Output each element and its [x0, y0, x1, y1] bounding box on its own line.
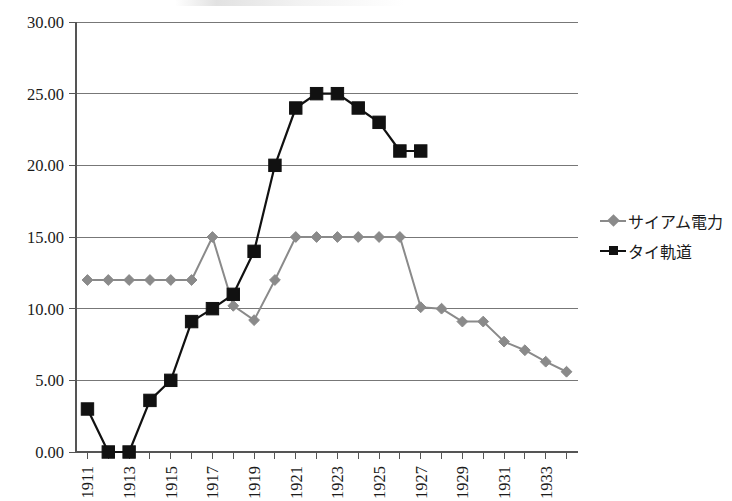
x-axis-tick-label: 1931: [495, 466, 514, 499]
y-axis-tick-label: 15.00: [27, 228, 64, 247]
y-axis-tick-label: 20.00: [27, 156, 64, 175]
data-point-marker-square: [123, 446, 135, 458]
data-point-marker-diamond: [519, 345, 530, 356]
data-point-marker-diamond: [290, 232, 301, 243]
data-point-marker-diamond: [311, 232, 322, 243]
data-point-marker-diamond: [82, 275, 93, 286]
x-axis-tick-label: 1921: [287, 466, 306, 499]
data-point-marker-square: [144, 394, 156, 406]
chart-container: 0.005.0010.0015.0020.0025.0030.00 191119…: [0, 0, 732, 501]
gray-diamond-line-icon: [600, 213, 626, 229]
data-point-marker-square: [185, 315, 197, 327]
data-point-marker-diamond: [540, 356, 551, 367]
data-point-marker-diamond: [561, 366, 572, 377]
data-point-marker-diamond: [374, 232, 385, 243]
data-point-marker-square: [310, 87, 322, 99]
data-point-marker-diamond: [270, 275, 281, 286]
data-point-marker-diamond: [145, 275, 156, 286]
data-point-marker-square: [394, 145, 406, 157]
data-point-marker-diamond: [457, 316, 468, 327]
data-point-marker-square: [373, 116, 385, 128]
data-point-marker-diamond: [165, 275, 176, 286]
x-axis-tick-label: 1917: [203, 466, 222, 499]
data-point-marker-square: [269, 159, 281, 171]
series-line-thai-tramway: [87, 94, 420, 452]
legend-label-series-b: タイ軌道: [628, 239, 692, 263]
data-point-marker-square: [227, 288, 239, 300]
legend-item-series-b[interactable]: タイ軌道: [600, 236, 732, 266]
data-point-marker-diamond: [353, 232, 364, 243]
x-axis-tick-label: 1913: [120, 466, 139, 499]
data-point-marker-square: [206, 302, 218, 314]
data-point-marker-square: [248, 245, 260, 257]
black-square-line-icon: [600, 243, 626, 259]
legend-item-series-a[interactable]: サイアム電力: [600, 206, 732, 236]
data-point-marker-diamond: [415, 302, 426, 313]
data-series-group: [81, 87, 572, 458]
data-point-marker-diamond: [207, 232, 218, 243]
x-axis-tick-label: 1925: [370, 466, 389, 499]
data-point-marker-diamond: [124, 275, 135, 286]
data-point-marker-square: [331, 87, 343, 99]
data-point-marker-square: [165, 374, 177, 386]
data-point-marker-diamond: [186, 275, 197, 286]
data-point-marker-square: [81, 403, 93, 415]
data-point-marker-diamond: [395, 232, 406, 243]
x-axis-tick-label: 1911: [78, 466, 97, 498]
x-axis-labels-group: 1911191319151917191919211923192519271929…: [78, 466, 555, 499]
x-axis-tick-label: 1919: [245, 466, 264, 499]
x-axis-tick-label: 1923: [328, 466, 347, 499]
data-point-marker-square: [415, 145, 427, 157]
data-point-marker-square: [290, 102, 302, 114]
series-line-siam-electric: [87, 237, 566, 372]
x-ticks-group: [87, 452, 566, 459]
data-point-marker-diamond: [332, 232, 343, 243]
chart-legend: サイアム電力 タイ軌道: [600, 206, 732, 266]
x-axis-tick-label: 1915: [162, 466, 181, 499]
x-axis-tick-label: 1927: [412, 466, 431, 499]
y-axis-tick-label: 10.00: [27, 300, 64, 319]
y-axis-tick-label: 0.00: [35, 443, 64, 462]
x-axis-tick-label: 1929: [453, 466, 472, 499]
data-point-marker-diamond: [103, 275, 114, 286]
y-axis-tick-label: 30.00: [27, 13, 64, 32]
y-axis-tick-label: 25.00: [27, 85, 64, 104]
y-axis-labels-group: 0.005.0010.0015.0020.0025.0030.00: [27, 13, 76, 462]
x-axis-tick-label: 1933: [537, 466, 556, 499]
data-point-marker-square: [352, 102, 364, 114]
y-axis-tick-label: 5.00: [35, 371, 64, 390]
data-point-marker-square: [102, 446, 114, 458]
data-point-marker-diamond: [436, 303, 447, 314]
legend-label-series-a: サイアム電力: [628, 209, 723, 233]
